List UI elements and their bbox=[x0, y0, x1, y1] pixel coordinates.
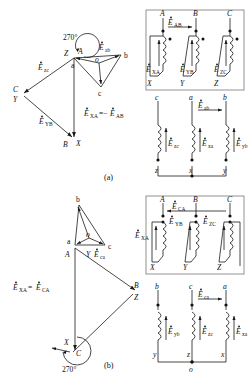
polarity-dot bbox=[224, 303, 227, 306]
node-b-small-a: b bbox=[124, 51, 128, 60]
dot-accent bbox=[171, 216, 173, 218]
svg-text:E: E bbox=[109, 109, 115, 118]
coilb3-winding-a bbox=[226, 125, 229, 160]
inner-edge-ab-b bbox=[75, 205, 79, 245]
svg-text:E: E bbox=[235, 139, 241, 148]
neutral-junction-dot bbox=[190, 360, 194, 364]
svg-text:XA: XA bbox=[19, 287, 27, 293]
circuit-b-top-frame bbox=[146, 196, 244, 274]
coil3-winding-a bbox=[230, 36, 233, 71]
polarity-dot bbox=[169, 38, 172, 41]
coilb2-winding-a bbox=[192, 125, 195, 160]
terminal-Y-b: Y bbox=[183, 263, 188, 272]
label-Exa-circuit-b: E xa bbox=[235, 326, 248, 337]
svg-text:=−: =− bbox=[99, 109, 108, 118]
svg-text:yb: yb bbox=[174, 331, 180, 337]
label-EXA-a: E XA bbox=[145, 64, 160, 75]
coil3-winding-b bbox=[230, 222, 233, 256]
coilb1-winding-a bbox=[158, 125, 161, 160]
terminal-x-b: x bbox=[220, 350, 225, 359]
label-Ezc-circuit-a: E zc bbox=[167, 138, 179, 149]
node-Y-b: Y bbox=[86, 250, 91, 259]
dot-accent bbox=[170, 17, 172, 19]
terminal-b-b: b bbox=[155, 282, 159, 291]
dot-accent bbox=[182, 64, 184, 66]
svg-text:ca: ca bbox=[204, 294, 209, 300]
label-EXA-circuit-b: E XA bbox=[134, 230, 149, 241]
label-ECA-circuit-b: E CA bbox=[171, 201, 186, 212]
svg-text:XA: XA bbox=[141, 235, 149, 241]
terminal-X-b: X bbox=[149, 263, 155, 272]
dot-accent bbox=[200, 289, 202, 291]
terminal-y-b: y bbox=[152, 350, 157, 359]
dot-accent bbox=[216, 64, 218, 66]
node-X-b: X bbox=[63, 338, 69, 347]
svg-text:E: E bbox=[201, 139, 207, 148]
svg-text:E: E bbox=[197, 290, 203, 299]
svg-text:YB: YB bbox=[45, 121, 53, 127]
svg-text:YB: YB bbox=[175, 221, 183, 227]
terminal-A-a: A bbox=[159, 9, 165, 18]
coilb1-winding-b bbox=[158, 312, 161, 346]
svg-text:AB: AB bbox=[174, 22, 182, 28]
svg-text:E: E bbox=[37, 63, 43, 72]
node-o-a: o bbox=[95, 55, 99, 64]
node-B-a: B bbox=[63, 140, 68, 149]
dot-accent bbox=[174, 201, 176, 203]
svg-text:ZC: ZC bbox=[209, 221, 216, 227]
dot-accent bbox=[148, 64, 150, 66]
node-X-a: X bbox=[75, 139, 81, 148]
terminal-Y-a: Y bbox=[180, 79, 185, 88]
dot-accent bbox=[200, 100, 202, 102]
neutral-label-b: o bbox=[189, 365, 193, 374]
svg-text:ca: ca bbox=[100, 254, 105, 260]
svg-text:E: E bbox=[167, 327, 173, 336]
label-Eab-a: E ab bbox=[98, 42, 110, 53]
node-c-small-a: c bbox=[98, 89, 102, 98]
terminal-a-b: a bbox=[223, 282, 227, 291]
label-Eyb-circuit-a: E yb bbox=[235, 138, 248, 149]
panel-a-circuit-top: A B C E AB E XA E bbox=[145, 9, 244, 90]
terminal-c-a: c bbox=[155, 93, 159, 102]
svg-text:E: E bbox=[83, 109, 89, 118]
svg-text:XA: XA bbox=[152, 69, 160, 75]
svg-text:E: E bbox=[35, 283, 41, 292]
caption-b: (b) bbox=[104, 361, 114, 370]
node-C-b: C bbox=[76, 349, 82, 358]
label-Eca-circuit-b: E ca bbox=[197, 289, 209, 300]
svg-text:E: E bbox=[201, 327, 207, 336]
terminal-z-b: z bbox=[186, 350, 190, 359]
node-b-small-b: b bbox=[76, 195, 80, 204]
coilb3-winding-b bbox=[226, 312, 229, 346]
coil2-winding-a bbox=[196, 36, 199, 71]
coil2-loop-b bbox=[185, 222, 196, 262]
coil1-loop-b bbox=[152, 222, 163, 262]
dot-accent bbox=[41, 116, 43, 118]
terminal-Z-a: Z bbox=[214, 79, 219, 88]
dot-accent bbox=[137, 230, 139, 232]
panel-a-circuit-bottom: c a b E ab E zc E xa E yb bbox=[154, 93, 248, 178]
label-Ezc-circuit-b: E zc bbox=[201, 326, 213, 337]
dot-accent bbox=[101, 42, 103, 44]
dot-accent bbox=[170, 326, 172, 328]
svg-text:xa: xa bbox=[242, 331, 248, 337]
svg-text:E: E bbox=[167, 139, 173, 148]
junction-dot bbox=[194, 214, 197, 217]
polarity-dot bbox=[190, 303, 193, 306]
terminal-Z-b: Z bbox=[217, 263, 222, 272]
dot-accent bbox=[238, 138, 240, 140]
terminal-b-a: b bbox=[223, 93, 227, 102]
svg-text:E: E bbox=[145, 65, 151, 74]
star-oc-a bbox=[99, 63, 101, 84]
svg-text:E: E bbox=[134, 231, 140, 240]
junction-dot bbox=[228, 214, 231, 217]
label-Eab-circuit-a: E ab bbox=[197, 100, 209, 111]
label-EZC-circuit-b: E ZC bbox=[202, 216, 216, 227]
node-Z-b: Z bbox=[134, 293, 139, 302]
figure-canvas: 270° o a b c Z A C Y B X E ab E bbox=[0, 0, 249, 379]
panel-b-circuit-bottom: b c a E ca E yb E zc E xa bbox=[152, 282, 248, 374]
svg-text:E: E bbox=[235, 327, 241, 336]
label-Ezc-a: E zc bbox=[37, 62, 49, 73]
terminal-c-b: c bbox=[189, 282, 193, 291]
label-Eca-b: E ca bbox=[93, 249, 105, 260]
